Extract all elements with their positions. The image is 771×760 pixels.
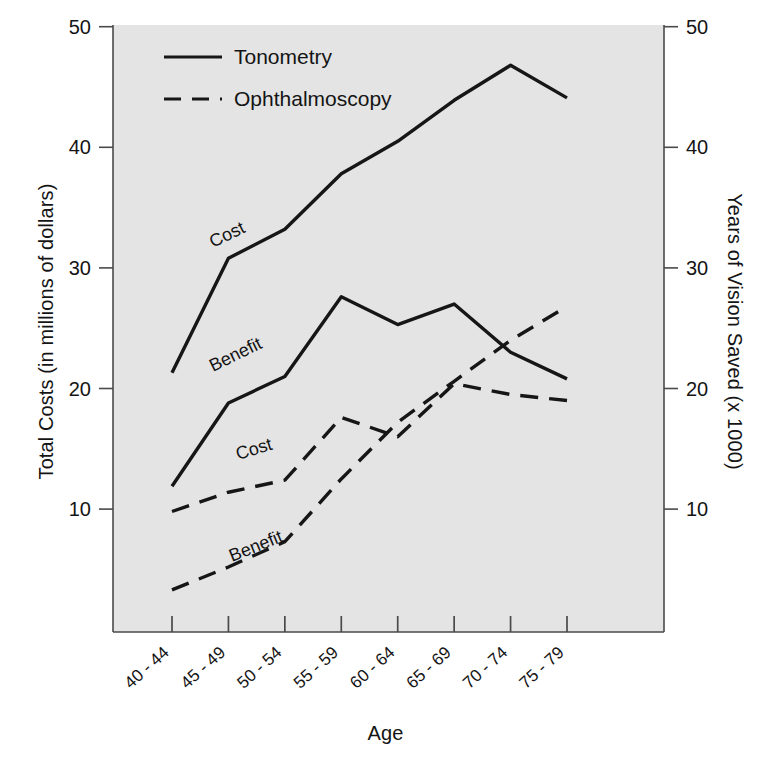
y-axis-left-title: Total Costs (in millions of dollars) [35, 72, 58, 592]
x-axis-tick-label: 70 - 74 [459, 643, 511, 693]
y-axis-right-tick-label: 50 [686, 16, 708, 38]
y-axis-left-tick-label: 20 [69, 378, 91, 400]
x-axis-tick-label: 50 - 54 [233, 643, 285, 693]
y-axis-left-tick-label: 10 [69, 498, 91, 520]
y-axis-right-tick-label: 20 [686, 378, 708, 400]
x-axis-tick-label: 40 - 44 [121, 643, 173, 693]
y-axis-right-tick-label: 30 [686, 257, 708, 279]
y-axis-right-tick-label: 10 [686, 498, 708, 520]
x-axis-tick-label: 65 - 69 [403, 643, 455, 693]
y-axis-right-title: Years of Vision Saved (x 1000) [723, 72, 746, 592]
x-axis-title: Age [0, 722, 771, 745]
y-axis-left-ticks: 5040302010 [69, 16, 113, 520]
x-axis-tick-label: 45 - 49 [177, 643, 229, 693]
y-axis-left-tick-label: 40 [69, 136, 91, 158]
y-axis-right-tick-label: 40 [686, 136, 708, 158]
y-axis-left-tick-label: 50 [69, 16, 91, 38]
legend-label-ophthalmoscopy: Ophthalmoscopy [234, 87, 392, 110]
x-axis-tick-label: 55 - 59 [290, 643, 342, 693]
plot-area: 5040302010 5040302010 40 - 4445 - 4950 -… [0, 0, 771, 700]
x-axis-tick-label: 75 - 79 [516, 643, 568, 693]
chart-figure: Total Costs (in millions of dollars) Yea… [0, 0, 771, 760]
y-axis-left-tick-label: 30 [69, 257, 91, 279]
x-axis-tick-label: 60 - 64 [346, 643, 398, 693]
y-axis-right-ticks: 5040302010 [664, 16, 708, 520]
legend-label-tonometry: Tonometry [234, 45, 333, 68]
